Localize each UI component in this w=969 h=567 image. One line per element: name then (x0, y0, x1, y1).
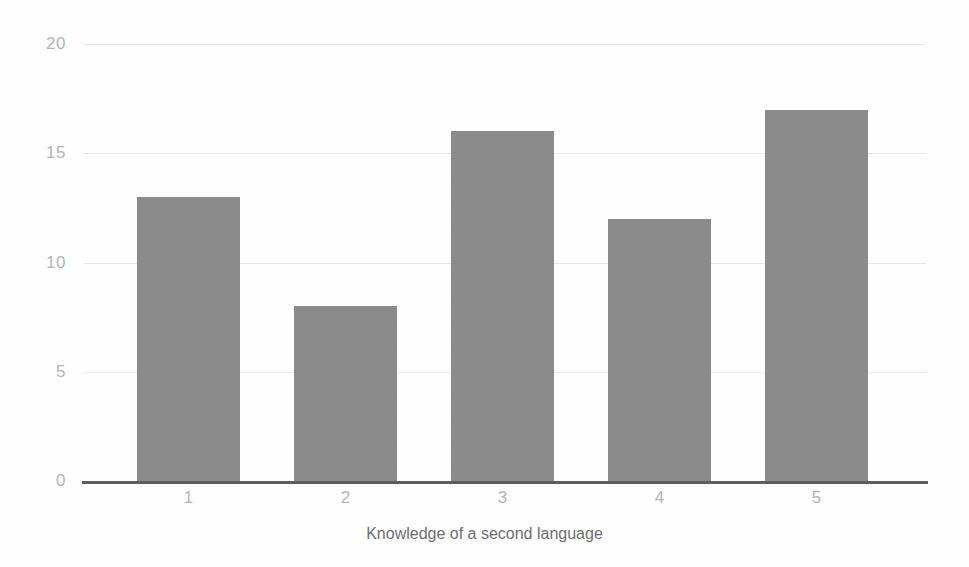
x-axis-tick-label-3: 3 (448, 489, 558, 506)
bar-chart: 20 15 10 5 0 1 2 3 4 5 Knowledge of a se… (0, 0, 969, 567)
y-axis-tick-label-5: 5 (26, 363, 66, 380)
bar-category-3 (451, 131, 554, 481)
y-axis-tick-label-10: 10 (26, 254, 66, 271)
y-axis-tick-label-15: 15 (26, 144, 66, 161)
gridline-20 (84, 44, 926, 45)
x-axis-tick-label-5: 5 (762, 489, 872, 506)
x-axis-tick-label-2: 2 (291, 489, 401, 506)
bar-category-5 (765, 110, 868, 481)
bar-category-2 (294, 306, 397, 481)
x-axis-title: Knowledge of a second language (0, 524, 969, 543)
bar-category-4 (608, 219, 711, 481)
y-axis-tick-label-0: 0 (26, 472, 66, 489)
x-axis-tick-label-1: 1 (134, 489, 244, 506)
y-axis-tick-label-20: 20 (26, 35, 66, 52)
bar-category-1 (137, 197, 240, 481)
x-axis-line (82, 481, 928, 484)
x-axis-tick-label-4: 4 (605, 489, 715, 506)
plot-area: 20 15 10 5 0 1 2 3 4 5 Knowledge of a se… (0, 0, 969, 567)
